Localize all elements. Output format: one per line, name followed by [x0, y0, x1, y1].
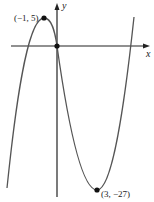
- x-axis-label: x: [145, 48, 151, 59]
- y-axis-label: y: [61, 0, 67, 11]
- min-point-label: (3, −27): [101, 189, 130, 199]
- y-axis-arrow-icon: [55, 3, 60, 10]
- cubic-curve: [7, 17, 134, 190]
- graph: (−1, 5) (3, −27) x y: [0, 0, 154, 202]
- max-point-label: (−1, 5): [14, 13, 39, 23]
- origin-point: [54, 43, 59, 48]
- max-point: [41, 15, 46, 20]
- min-point: [94, 187, 99, 192]
